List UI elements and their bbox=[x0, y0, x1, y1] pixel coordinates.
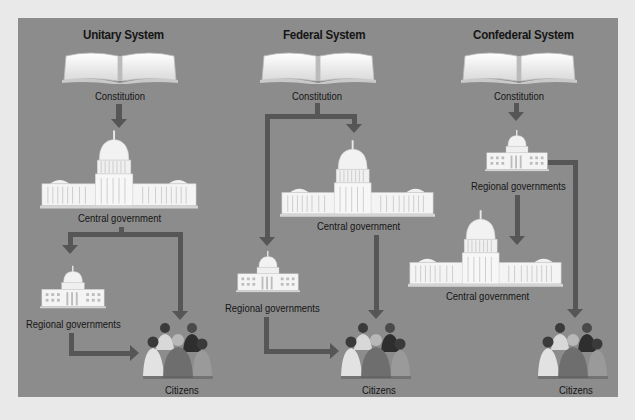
arrow-connector bbox=[68, 232, 183, 237]
people-group-icon bbox=[341, 320, 411, 380]
federal-central-label: Central government bbox=[317, 220, 400, 232]
people-group-icon bbox=[538, 320, 608, 380]
arrow-connector bbox=[116, 104, 122, 120]
arrow-connector bbox=[265, 114, 357, 119]
arrow-connector bbox=[374, 235, 379, 311]
arrow-down-icon bbox=[259, 237, 275, 246]
capitol-building-icon bbox=[280, 140, 435, 218]
unitary-citizens-label: Citizens bbox=[165, 384, 199, 396]
arrow-down-icon bbox=[346, 124, 362, 133]
unitary-regional-label: Regional governments bbox=[26, 318, 121, 330]
arrow-connector bbox=[68, 232, 73, 246]
confederal-citizens-label: Citizens bbox=[559, 384, 593, 396]
confederal-central-label: Central government bbox=[446, 290, 529, 302]
arrow-down-icon bbox=[172, 311, 188, 320]
capitol-building-icon bbox=[236, 250, 300, 294]
open-book-icon bbox=[258, 50, 378, 84]
arrow-down-icon bbox=[567, 309, 583, 318]
confederal-title: Confederal System bbox=[473, 27, 574, 42]
capitol-building-icon bbox=[485, 127, 549, 175]
capitol-building-icon bbox=[40, 265, 106, 310]
arrow-down-icon bbox=[62, 245, 78, 254]
arrow-connector bbox=[264, 349, 332, 354]
unitary-central-label: Central government bbox=[78, 212, 161, 224]
arrow-connector bbox=[265, 114, 270, 238]
capitol-building-icon bbox=[408, 210, 563, 288]
arrow-down-icon bbox=[508, 112, 524, 121]
federal-regional-label: Regional governments bbox=[225, 302, 320, 314]
open-book-icon bbox=[459, 50, 579, 84]
arrow-connector bbox=[178, 232, 183, 312]
arrow-right-icon bbox=[130, 345, 139, 361]
arrow-connector bbox=[573, 160, 578, 310]
federal-title: Federal System bbox=[283, 27, 365, 42]
arrow-connector bbox=[69, 351, 131, 356]
unitary-title: Unitary System bbox=[83, 27, 164, 42]
arrow-connector bbox=[264, 317, 269, 353]
arrow-right-icon bbox=[330, 343, 339, 359]
arrow-down-icon bbox=[111, 119, 127, 128]
confederal-regional-label: Regional governments bbox=[471, 180, 566, 192]
unitary-constitution-label: Constitution bbox=[95, 90, 145, 102]
confederal-constitution-label: Constitution bbox=[494, 90, 544, 102]
federal-citizens-label: Citizens bbox=[362, 384, 396, 396]
federal-constitution-label: Constitution bbox=[292, 90, 342, 102]
capitol-building-icon bbox=[40, 130, 198, 210]
arrow-down-icon bbox=[368, 310, 384, 319]
people-group-icon bbox=[143, 320, 213, 380]
open-book-icon bbox=[60, 50, 180, 84]
